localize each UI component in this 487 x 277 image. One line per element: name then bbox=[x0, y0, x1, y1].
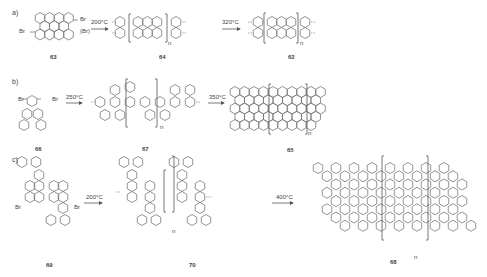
condition-b2: 350°C bbox=[209, 94, 226, 100]
row-label-c: c) bbox=[12, 156, 18, 163]
repeat-index: n bbox=[172, 228, 175, 234]
repeat-index: n bbox=[168, 40, 171, 46]
repeat-index: n bbox=[308, 130, 311, 136]
bromine-label: Br bbox=[74, 204, 80, 210]
repeat-index: n bbox=[414, 254, 417, 260]
bromine-label: Br bbox=[15, 204, 21, 210]
row-a-structures bbox=[30, 13, 316, 44]
compound-label-67: 67 bbox=[142, 146, 149, 152]
repeat-index: n bbox=[160, 124, 163, 130]
bromine-label: Br bbox=[52, 96, 58, 102]
compound-label-70: 70 bbox=[189, 262, 196, 268]
condition-b1: 250°C bbox=[66, 94, 83, 100]
condition-c1: 200°C bbox=[86, 194, 103, 200]
compound-label-62: 62 bbox=[288, 54, 295, 60]
condition-c2: 400°C bbox=[276, 194, 293, 200]
row-label-a: a) bbox=[12, 9, 18, 16]
repeat-index: n bbox=[300, 40, 303, 46]
bromine-optional-label: (Br) bbox=[80, 28, 90, 34]
bromine-label: Br bbox=[80, 16, 86, 22]
row-b-structures bbox=[19, 79, 325, 134]
compound-label-69: 69 bbox=[46, 262, 53, 268]
compound-label-64: 64 bbox=[159, 54, 166, 60]
condition-a1: 200°C bbox=[91, 19, 108, 25]
compound-label-65: 65 bbox=[287, 147, 294, 153]
compound-label-63: 63 bbox=[50, 54, 57, 60]
reaction-scheme-graphic bbox=[0, 0, 487, 277]
bromine-label: Br bbox=[19, 28, 25, 34]
bromine-label: Br bbox=[18, 96, 24, 102]
compound-label-66: 66 bbox=[35, 146, 42, 152]
condition-a2: 320°C bbox=[222, 19, 239, 25]
compound-label-68: 68 bbox=[390, 259, 397, 265]
row-label-b: b) bbox=[12, 78, 18, 85]
